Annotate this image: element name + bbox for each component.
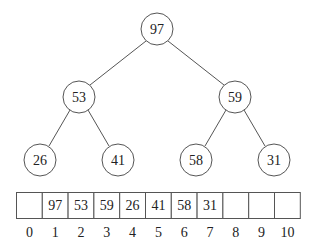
array-index-10: 10 bbox=[280, 225, 294, 240]
array-index-9: 9 bbox=[258, 225, 265, 240]
node-value: 58 bbox=[189, 153, 203, 168]
node-value: 53 bbox=[72, 90, 86, 105]
array-value-7: 31 bbox=[203, 198, 217, 213]
array-cell-9 bbox=[249, 193, 275, 219]
array-value-3: 59 bbox=[100, 198, 114, 213]
node-value: 31 bbox=[267, 153, 281, 168]
array-index-2: 2 bbox=[78, 225, 85, 240]
array-index-4: 4 bbox=[129, 225, 136, 240]
tree-node-root: 97 bbox=[141, 13, 173, 45]
array-indices: 0 1 2 3 4 5 6 7 8 9 10 bbox=[26, 225, 295, 240]
array-value-1: 97 bbox=[48, 198, 62, 213]
array-cell-8 bbox=[223, 193, 249, 219]
tree-node-right-right: 31 bbox=[258, 144, 290, 176]
tree-node-left-left: 26 bbox=[24, 144, 56, 176]
array-cell-10 bbox=[275, 193, 301, 219]
array-value-2: 53 bbox=[74, 198, 88, 213]
edge-59-31 bbox=[244, 110, 265, 146]
array-index-0: 0 bbox=[26, 225, 33, 240]
tree-node-right: 59 bbox=[219, 81, 251, 113]
node-value: 41 bbox=[111, 153, 125, 168]
node-value: 26 bbox=[33, 153, 47, 168]
array-index-3: 3 bbox=[103, 225, 110, 240]
edge-59-58 bbox=[205, 110, 226, 146]
array-index-6: 6 bbox=[181, 225, 188, 240]
tree-node-left: 53 bbox=[63, 81, 95, 113]
tree-node-left-right: 41 bbox=[102, 144, 134, 176]
tree-node-right-left: 58 bbox=[180, 144, 212, 176]
edge-97-59 bbox=[168, 41, 224, 85]
tree-nodes: 97 53 59 26 41 58 31 bbox=[24, 13, 290, 176]
node-value: 97 bbox=[150, 22, 164, 37]
array-index-7: 7 bbox=[207, 225, 214, 240]
array-value-4: 26 bbox=[126, 198, 140, 213]
edge-53-26 bbox=[49, 110, 70, 146]
array-index-1: 1 bbox=[52, 225, 59, 240]
edge-97-53 bbox=[90, 41, 146, 85]
node-value: 59 bbox=[228, 90, 242, 105]
heap-diagram: 97 53 59 26 41 58 31 bbox=[0, 0, 314, 245]
array-index-5: 5 bbox=[155, 225, 162, 240]
array-cell-0 bbox=[17, 193, 43, 219]
heap-array: 97 53 59 26 41 58 31 bbox=[17, 193, 301, 219]
array-value-6: 58 bbox=[177, 198, 191, 213]
array-index-8: 8 bbox=[232, 225, 239, 240]
edge-53-41 bbox=[88, 110, 109, 146]
array-value-5: 41 bbox=[151, 198, 165, 213]
